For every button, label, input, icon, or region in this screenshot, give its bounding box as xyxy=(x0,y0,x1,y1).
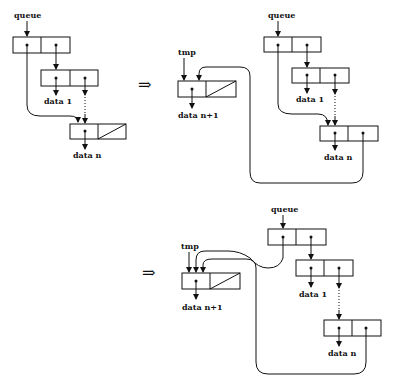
panel-initial-queue: queue data 1 d xyxy=(13,10,126,160)
node-new xyxy=(182,273,240,289)
datan-label: data n xyxy=(328,348,356,358)
queue-label: queue xyxy=(271,204,298,214)
data1-label: data 1 xyxy=(299,289,327,299)
node-1 xyxy=(13,37,70,53)
datan-label: data n xyxy=(324,152,352,162)
next-link-to-new-node xyxy=(199,67,363,183)
node-1 xyxy=(264,37,321,52)
node-new xyxy=(178,81,236,97)
rear-pointer-arrow xyxy=(196,237,283,272)
panel-new-node-linked: tmp data n+1 queue data 1 xyxy=(178,10,378,183)
datan1-label: data n+1 xyxy=(178,110,219,120)
node-2 xyxy=(292,68,349,83)
queue-label: queue xyxy=(14,10,41,20)
node-1 xyxy=(268,229,326,245)
implies-icon: ⇒ xyxy=(142,263,155,282)
tmp-label: tmp xyxy=(181,241,199,251)
queue-diagram: queue data 1 d xyxy=(0,0,394,383)
node-2 xyxy=(296,260,353,276)
queue-label: queue xyxy=(268,10,295,20)
node-2 xyxy=(41,70,98,86)
node-n xyxy=(320,126,378,141)
rear-pointer-arrow xyxy=(278,45,328,125)
panel-rear-updated: tmp data n+1 queue data 1 xyxy=(181,204,381,374)
implies-icon: ⇒ xyxy=(138,75,151,94)
datan-label: data n xyxy=(73,150,101,160)
tmp-label: tmp xyxy=(178,47,196,57)
node-n xyxy=(324,320,381,336)
datan1-label: data n+1 xyxy=(182,302,223,312)
data1-label: data 1 xyxy=(296,94,324,104)
data1-label: data 1 xyxy=(44,96,72,106)
node-n xyxy=(70,124,126,139)
